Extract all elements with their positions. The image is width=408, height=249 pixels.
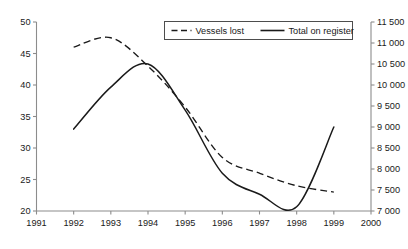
y-axis-tick-label: 35 [20, 112, 30, 122]
y-axis-tick-label: 20 [20, 206, 30, 216]
y-axis-tick-label: 30 [20, 143, 30, 153]
y2-axis-tick-label: 7 000 [377, 206, 400, 216]
y2-axis-tick-label: 8 000 [377, 164, 400, 174]
x-axis-tick-label: 1993 [101, 218, 121, 228]
y2-axis-tick-label: 7 500 [377, 185, 400, 195]
x-axis: 1991199219931994199519961997199819992000 [26, 211, 381, 228]
x-axis-tick-label: 1991 [26, 218, 46, 228]
series-line-vessels-lost [74, 37, 334, 192]
line-chart: 20253035404550 7 0007 5008 0008 5009 000… [0, 0, 408, 249]
x-axis-tick-label: 1992 [63, 218, 83, 228]
x-axis-tick-label: 1996 [212, 218, 232, 228]
y-axis-tick-label: 25 [20, 175, 30, 185]
y2-axis-tick-label: 11 500 [377, 17, 404, 27]
legend-label-vessels-lost: Vessels lost [196, 26, 245, 36]
x-axis-tick-label: 1999 [324, 218, 344, 228]
legend-label-total-on-register: Total on register [289, 26, 354, 36]
chart-container: 20253035404550 7 0007 5008 0008 5009 000… [0, 0, 408, 249]
y-axis-tick-label: 40 [20, 80, 30, 90]
y2-axis-tick-label: 10 500 [377, 59, 405, 69]
y2-axis-tick-label: 8 500 [377, 143, 400, 153]
x-axis-tick-label: 1998 [286, 218, 306, 228]
y2-axis-tick-label: 9 000 [377, 122, 400, 132]
x-axis-tick-label: 1995 [175, 218, 195, 228]
y-axis-tick-label: 50 [20, 17, 30, 27]
chart-legend: Vessels lostTotal on register [165, 22, 354, 40]
left-axis: 20253035404550 [20, 17, 36, 216]
y2-axis-tick-label: 11 000 [377, 38, 404, 48]
y2-axis-tick-label: 10 000 [377, 80, 405, 90]
series-line-total-on-register [74, 63, 334, 210]
right-axis: 7 0007 5008 0008 5009 0009 50010 00010 5… [371, 17, 405, 216]
x-axis-tick-label: 1997 [249, 218, 269, 228]
y2-axis-tick-label: 9 500 [377, 101, 400, 111]
y-axis-tick-label: 45 [20, 49, 30, 59]
x-axis-tick-label: 1994 [138, 218, 158, 228]
x-axis-tick-label: 2000 [361, 218, 381, 228]
series-layer [74, 37, 334, 210]
